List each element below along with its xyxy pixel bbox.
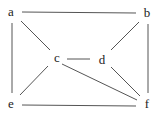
edge-a-b [22, 12, 136, 13]
edge-c-e [20, 66, 48, 95]
edge-d-f [111, 67, 140, 96]
nodes-group: abcdef [8, 4, 150, 111]
edge-e-f [22, 105, 136, 106]
graph-diagram: abcdef [0, 0, 157, 113]
edges-group [12, 12, 148, 106]
node-f: f [145, 96, 150, 111]
node-e: e [8, 96, 14, 111]
graph-canvas: abcdef [0, 0, 157, 113]
node-c: c [54, 50, 60, 65]
node-b: b [144, 5, 151, 20]
edge-b-d [111, 22, 139, 50]
node-a: a [8, 4, 14, 19]
edge-a-c [21, 21, 50, 50]
node-d: d [99, 52, 106, 67]
